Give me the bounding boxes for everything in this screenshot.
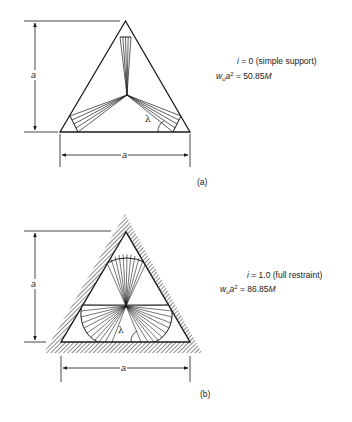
- panel-b-w-subscript: u: [226, 289, 229, 295]
- panel-b-result-unit: M: [269, 284, 276, 294]
- panel-a-caption: (a): [197, 177, 207, 187]
- panel-a-triangle: [60, 21, 190, 132]
- panel-b-result: wua2 = 86.85M: [220, 284, 276, 295]
- panel-a-w-subscript: u: [222, 76, 225, 82]
- panel-a-dimensions: [24, 21, 190, 167]
- panel-a-condition: i = 0 (simple support): [237, 56, 317, 66]
- panel-a-result-unit: M: [265, 71, 272, 81]
- panel-b-result-value: = 86.85: [238, 284, 269, 294]
- panel-b-triangle: [60, 232, 192, 342]
- panel-a-a-superscript: 2: [230, 71, 233, 77]
- panel-b-a-superscript: 2: [234, 284, 237, 290]
- panel-a-result: wua2 = 50.85M: [216, 71, 272, 82]
- panel-a-height-label: a: [30, 70, 37, 80]
- panel-b-condition: i = 1.0 (full restraint): [247, 270, 322, 280]
- panel-a-result-value: = 50.85: [234, 71, 265, 81]
- panel-a-width-label: a: [121, 150, 128, 160]
- panel-b-condition-text: = 1.0 (full restraint): [249, 270, 322, 280]
- panel-b-width-label: a: [120, 363, 127, 373]
- panel-a-angle-label: λ: [145, 114, 151, 124]
- panel-b-angle-label: λ: [118, 325, 124, 335]
- panel-b-caption: (b): [200, 389, 210, 399]
- panel-b-height-label: a: [30, 279, 37, 289]
- panel-a-condition-text: = 0 (simple support): [239, 56, 317, 66]
